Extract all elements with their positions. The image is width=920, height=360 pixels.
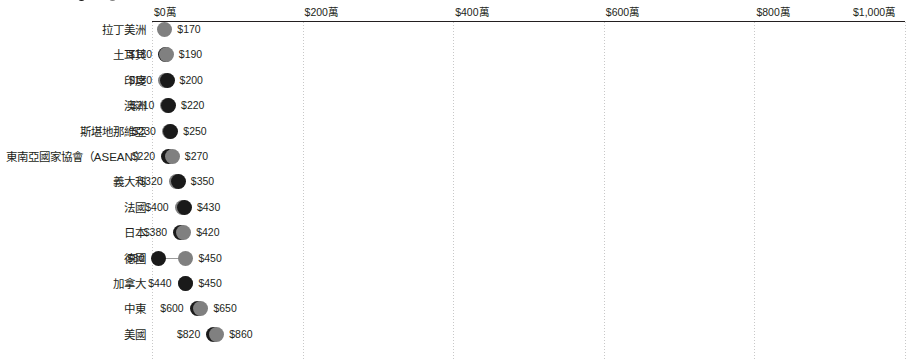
- chart-row: $180$200: [0, 69, 920, 93]
- dumbbell-chart: $0萬$200萬$400萬$600萬$800萬$1,000萬 拉丁美洲土耳其印度…: [0, 0, 920, 360]
- chart-row: $320$350: [0, 170, 920, 194]
- data-point-value-label: $320: [121, 174, 163, 189]
- data-point-value-label: $170: [177, 22, 200, 37]
- data-point-value-label: $860: [229, 327, 252, 342]
- chart-row: $210$220: [0, 94, 920, 118]
- data-point-value-label: $230: [114, 124, 156, 139]
- data-point-value-label: $450: [198, 276, 221, 291]
- data-point-dark[interactable]: [163, 124, 178, 139]
- data-point-value-label: $180: [110, 47, 152, 62]
- data-point-gray[interactable]: [193, 301, 208, 316]
- legend-dot-gray-icon: [109, 0, 116, 1]
- data-point-value-label: $600: [142, 301, 184, 316]
- data-point-value-label: $420: [196, 225, 219, 240]
- data-point-dark[interactable]: [161, 98, 176, 113]
- data-point-value-label: $220: [113, 149, 155, 164]
- data-point-value-label: $820: [158, 327, 200, 342]
- data-point-value-label: $380: [125, 225, 167, 240]
- chart-row: $230$250: [0, 120, 920, 144]
- chart-row: $600$650: [0, 297, 920, 321]
- chart-row: $170: [0, 18, 920, 42]
- data-point-value-label: $190: [179, 47, 202, 62]
- chart-legend-clipped: [0, 0, 920, 2]
- data-point-value-label: $650: [213, 301, 236, 316]
- data-point-value-label: $450: [198, 251, 221, 266]
- chart-row: $380$420: [0, 221, 920, 245]
- legend-dot-dark-icon: [78, 0, 85, 1]
- data-point-dark[interactable]: [178, 276, 193, 291]
- data-point-value-label: $80: [103, 251, 145, 266]
- chart-row: $820$860: [0, 323, 920, 347]
- data-point-dark[interactable]: [160, 73, 175, 88]
- chart-row: $80$450: [0, 247, 920, 271]
- data-point-value-label: $220: [181, 98, 204, 113]
- chart-row: $400$430: [0, 196, 920, 220]
- data-point-gray[interactable]: [178, 251, 193, 266]
- chart-row: $220$270: [0, 145, 920, 169]
- data-point-value-label: $270: [185, 149, 208, 164]
- data-point-dark[interactable]: [177, 200, 192, 215]
- data-rows: $170$180$190$180$200$210$220$230$250$220…: [0, 21, 920, 360]
- data-point-value-label: $430: [197, 200, 220, 215]
- data-point-value-label: $350: [191, 174, 214, 189]
- data-point-value-label: $250: [183, 124, 206, 139]
- data-point-value-label: $200: [180, 73, 203, 88]
- data-point-value-label: $180: [110, 73, 152, 88]
- chart-row: $440$450: [0, 272, 920, 296]
- data-point-value-label: $440: [130, 276, 172, 291]
- chart-row: $180$190: [0, 43, 920, 67]
- data-point-gray[interactable]: [209, 327, 224, 342]
- data-point-gray[interactable]: [157, 22, 172, 37]
- data-point-value-label: $400: [127, 200, 169, 215]
- data-point-value-label: $210: [112, 98, 154, 113]
- data-point-gray[interactable]: [165, 149, 180, 164]
- data-point-gray[interactable]: [176, 225, 191, 240]
- data-point-dark[interactable]: [151, 251, 166, 266]
- data-point-dark[interactable]: [171, 174, 186, 189]
- data-point-gray[interactable]: [159, 47, 174, 62]
